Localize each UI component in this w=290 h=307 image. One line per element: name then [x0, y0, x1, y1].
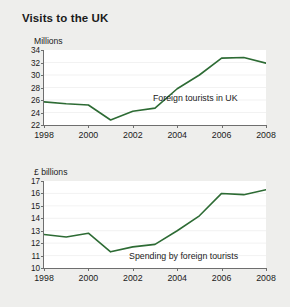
series-label-top: Foreign tourists in UK [153, 93, 238, 103]
plot-wrap-top: 34323028262422199820002002200420062008 F… [12, 50, 278, 126]
0-xtick-label: 1998 [34, 130, 54, 140]
0-xtick-mark [266, 125, 267, 128]
0-xtick-label: 2006 [212, 130, 232, 140]
chart-figure: Visits to the UK Millions 34323028262422… [0, 0, 290, 307]
0-xtick-label: 2000 [79, 130, 99, 140]
1-ytick-label: 13 [16, 226, 40, 235]
1-xtick-mark [177, 268, 178, 271]
plot-area-top: 34323028262422199820002002200420062008 [43, 50, 266, 126]
1-ytick-label: 11 [16, 251, 40, 260]
0-ytick-label: 30 [16, 71, 40, 80]
0-ytick-mark [41, 88, 44, 89]
series-label-bottom: Spending by foreign tourists [129, 251, 238, 261]
1-xtick-mark [222, 268, 223, 271]
1-ytick-mark [41, 193, 44, 194]
0-ytick-label: 34 [16, 46, 40, 55]
page-title: Visits to the UK [22, 12, 108, 24]
0-ytick-label: 32 [16, 58, 40, 67]
1-xtick-label: 2006 [212, 273, 232, 283]
0-xtick-mark [133, 125, 134, 128]
1-ytick-label: 14 [16, 214, 40, 223]
1-xtick-mark [133, 268, 134, 271]
1-xtick-label: 2004 [167, 273, 187, 283]
1-xtick-mark [88, 268, 89, 271]
0-ytick-mark [41, 100, 44, 101]
1-ytick-mark [41, 243, 44, 244]
0-xtick-mark [177, 125, 178, 128]
1-xtick-label: 1998 [34, 273, 54, 283]
0-xtick-mark [88, 125, 89, 128]
1-ytick-label: 10 [16, 264, 40, 273]
0-xtick-mark [222, 125, 223, 128]
0-ytick-mark [41, 75, 44, 76]
plot-wrap-bottom: 1716151413121110199820002002200420062008… [12, 181, 278, 269]
1-ytick-label: 15 [16, 201, 40, 210]
0-xtick-label: 2008 [256, 130, 276, 140]
line-chart-top [44, 50, 266, 125]
0-ytick-label: 26 [16, 96, 40, 105]
1-ytick-label: 16 [16, 189, 40, 198]
1-ytick-mark [41, 206, 44, 207]
y-axis-title-top: Millions [34, 36, 63, 46]
1-ytick-label: 12 [16, 239, 40, 248]
0-ytick-label: 24 [16, 108, 40, 117]
0-xtick-label: 2004 [167, 130, 187, 140]
1-xtick-label: 2002 [123, 273, 143, 283]
1-ytick-mark [41, 231, 44, 232]
0-ytick-label: 28 [16, 83, 40, 92]
1-xtick-label: 2000 [79, 273, 99, 283]
0-ytick-mark [41, 50, 44, 51]
0-ytick-mark [41, 113, 44, 114]
1-xtick-label: 2008 [256, 273, 276, 283]
chart-panel-top: Millions 3432302826242219982000200220042… [12, 36, 278, 148]
0-ytick-mark [41, 63, 44, 64]
chart-panel-bottom: £ billions 17161514131211101998200020022… [12, 167, 278, 292]
1-ytick-mark [41, 181, 44, 182]
0-xtick-label: 2002 [123, 130, 143, 140]
y-axis-title-bottom: £ billions [34, 167, 67, 177]
1-xtick-mark [266, 268, 267, 271]
1-ytick-mark [41, 218, 44, 219]
0-ytick-label: 22 [16, 121, 40, 130]
1-ytick-label: 17 [16, 177, 40, 186]
1-ytick-mark [41, 256, 44, 257]
0-xtick-mark [44, 125, 45, 128]
1-xtick-mark [44, 268, 45, 271]
